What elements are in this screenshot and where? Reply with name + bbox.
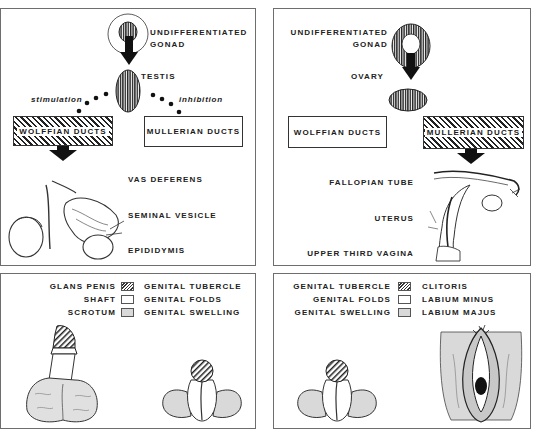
mullerian-ducts-label: MULLERIAN DUCTS xyxy=(145,127,242,136)
testis-icon xyxy=(115,69,141,113)
panel-female-external: GENITAL TUBERCLE CLITORIS GENITAL FOLDS … xyxy=(273,273,531,429)
legend-embryonic-label: GENITAL SWELLING xyxy=(295,308,391,317)
legend-embryonic-label: GENITAL TUBERCLE xyxy=(293,282,391,291)
arrow-down-icon xyxy=(49,146,77,162)
gonad-label: GONAD xyxy=(353,40,388,49)
mullerian-ducts-box: MULLERIAN DUCTS xyxy=(144,116,243,147)
arrow-down-icon xyxy=(402,53,420,81)
wolffian-ducts-box: WOLFFIAN DUCTS xyxy=(13,116,113,146)
structure-label: VAS DEFERENS xyxy=(128,175,203,184)
mullerian-ducts-label: MULLERIAN DUCTS xyxy=(425,128,522,137)
legend-embryonic-label: GENITAL TUBERCLE xyxy=(144,282,242,291)
legend-swatch-plain xyxy=(398,295,411,304)
gonad-label: UNDIFFERENTIATED xyxy=(291,28,388,37)
female-internal-organs-illustration xyxy=(424,167,524,263)
testis-label: TESTIS xyxy=(141,72,176,81)
legend-swatch-hatched xyxy=(121,282,134,291)
panel-male-external: GLANS PENIS GENITAL TUBERCLE SHAFT GENIT… xyxy=(0,273,256,429)
structure-label: FALLOPIAN TUBE xyxy=(329,178,414,187)
legend-adult-label: LABIUM MINUS xyxy=(422,295,494,304)
legend-swatch-plain xyxy=(121,295,134,304)
legend-adult-label: CLITORIS xyxy=(422,282,468,291)
wolffian-ducts-label: WOLFFIAN DUCTS xyxy=(292,128,383,137)
ovary-label: OVARY xyxy=(351,72,384,81)
arrow-down-icon xyxy=(120,36,138,66)
legend-adult-label: SHAFT xyxy=(84,295,116,304)
embryonic-male-external-illustration xyxy=(161,358,243,424)
legend-adult-label: LABIUM MAJUS xyxy=(422,308,497,317)
panel-female-internal: UNDIFFERENTIATED GONAD OVARY WOLFFIAN DU… xyxy=(273,8,531,266)
legend-swatch-gray xyxy=(121,308,134,317)
ovary-icon xyxy=(388,88,428,112)
structure-label: UTERUS xyxy=(375,214,415,223)
gonad-label: UNDIFFERENTIATED xyxy=(150,28,247,37)
legend-embryonic-label: GENITAL FOLDS xyxy=(144,295,222,304)
legend-adult-label: SCROTUM xyxy=(68,308,116,317)
structure-label: UPPER THIRD VAGINA xyxy=(307,249,414,258)
legend-swatch-gray xyxy=(398,308,411,317)
panel-male-internal: UNDIFFERENTIATED GONAD TESTIS stimulatio… xyxy=(0,8,256,266)
structure-label: SEMINAL VESICLE xyxy=(128,211,217,220)
gonad-label: GONAD xyxy=(150,40,185,49)
embryonic-female-external-illustration xyxy=(296,358,378,424)
legend-embryonic-label: GENITAL FOLDS xyxy=(313,295,391,304)
legend-swatch-hatched xyxy=(398,282,411,291)
adult-male-external-illustration xyxy=(25,324,101,426)
adult-female-external-illustration xyxy=(437,324,525,426)
legend-embryonic-label: GENITAL SWELLING xyxy=(144,308,240,317)
arrow-down-icon xyxy=(457,149,485,165)
structure-label: EPIDIDYMIS xyxy=(128,246,185,255)
mullerian-ducts-box: MULLERIAN DUCTS xyxy=(423,116,524,149)
wolffian-ducts-label: WOLFFIAN DUCTS xyxy=(17,127,108,136)
legend-adult-label: GLANS PENIS xyxy=(50,282,116,291)
wolffian-ducts-box: WOLFFIAN DUCTS xyxy=(288,116,387,148)
male-internal-organs-illustration xyxy=(6,179,126,261)
